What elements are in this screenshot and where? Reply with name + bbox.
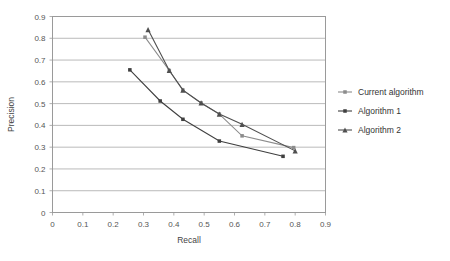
legend-marker (343, 109, 347, 113)
y-tick-label: 0.6 (34, 78, 46, 87)
series-line (130, 70, 283, 156)
legend-item-3[interactable]: Algorithm 2 (338, 125, 401, 135)
y-tick-label: 0 (41, 209, 46, 218)
y-tick-label: 0.7 (34, 56, 46, 65)
plot-frame (53, 17, 326, 213)
legend-label: Algorithm 1 (358, 106, 401, 116)
data-point (158, 99, 162, 103)
y-tick-label: 0.8 (34, 34, 46, 43)
series-line (148, 30, 295, 151)
x-axis-title: Recall (177, 235, 201, 245)
legend-label: Current algorithm (358, 87, 424, 97)
precision-recall-chart: 00.10.20.30.40.50.60.70.80.900.10.20.30.… (0, 0, 450, 261)
y-axis-title: Precision (6, 97, 16, 132)
data-point (281, 155, 285, 159)
data-point (217, 111, 222, 116)
legend-label: Algorithm 2 (358, 125, 401, 135)
series-3 (145, 27, 297, 154)
x-tick-label: 0.6 (229, 220, 241, 229)
data-point (239, 122, 244, 127)
series-line (145, 37, 294, 147)
chart-canvas: 00.10.20.30.40.50.60.70.80.900.10.20.30.… (0, 0, 450, 261)
x-tick-label: 0 (50, 220, 55, 229)
legend-item-2[interactable]: Algorithm 1 (338, 106, 401, 116)
y-tick-label: 0.1 (34, 187, 46, 196)
x-tick-label: 0.3 (138, 220, 150, 229)
data-point (181, 118, 185, 122)
y-tick-label: 0.5 (34, 100, 46, 109)
y-tick-label: 0.4 (34, 121, 46, 130)
x-tick-label: 0.1 (77, 220, 89, 229)
y-tick-label: 0.3 (34, 143, 46, 152)
data-point (143, 35, 147, 39)
data-point (292, 146, 296, 150)
data-point (240, 134, 244, 138)
x-tick-label: 0.4 (168, 220, 180, 229)
x-tick-label: 0.5 (199, 220, 211, 229)
data-point (145, 27, 150, 32)
y-tick-label: 0.2 (34, 165, 46, 174)
x-tick-label: 0.8 (290, 220, 302, 229)
y-tick-label: 0.9 (34, 13, 46, 22)
x-tick-label: 0.2 (108, 220, 120, 229)
x-tick-label: 0.7 (259, 220, 271, 229)
series-1 (143, 35, 295, 149)
legend-marker (343, 90, 347, 94)
data-point (128, 68, 132, 72)
data-point (218, 139, 222, 143)
x-tick-label: 0.9 (320, 220, 332, 229)
legend-item-1[interactable]: Current algorithm (338, 87, 424, 97)
